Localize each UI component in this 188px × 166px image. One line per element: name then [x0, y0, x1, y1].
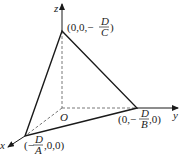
svg-text:(0,−: (0,− [118, 113, 136, 126]
z-intercept-label: (0,0,− D C ) [67, 15, 114, 38]
svg-text:,0,0): ,0,0) [44, 139, 65, 152]
x-intercept-label: (− D A ,0,0) [24, 133, 65, 156]
svg-text:B: B [141, 118, 148, 130]
svg-text:): ) [110, 21, 114, 34]
x-axis [8, 136, 25, 147]
svg-text:A: A [34, 144, 42, 156]
y-axis-label: y [172, 109, 178, 121]
svg-text:(0,0,−: (0,0,− [67, 21, 93, 34]
svg-text:,0): ,0) [149, 113, 161, 126]
z-axis-label: z [53, 2, 59, 14]
svg-text:(−: (− [24, 139, 34, 152]
origin-label: O [60, 111, 68, 123]
svg-text:C: C [101, 26, 109, 38]
x-axis-label: x [0, 139, 5, 151]
plane-intercept-diagram: z y x O (0,0,− D C ) (0,− D B ,0) (− D A… [0, 0, 188, 166]
